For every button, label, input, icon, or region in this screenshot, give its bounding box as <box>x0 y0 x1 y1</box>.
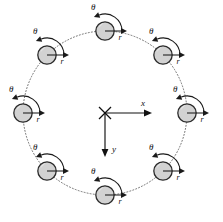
theta-label: θ <box>33 142 38 152</box>
x-axis-label: x <box>140 98 145 108</box>
x-axis-arrow <box>105 110 152 117</box>
r-label: r <box>36 115 40 124</box>
particle-4: θr <box>149 142 185 182</box>
r-label: r <box>118 197 122 206</box>
r-label: r <box>176 173 180 182</box>
r-label: r <box>200 115 204 124</box>
particle-2: θr <box>149 26 185 66</box>
particle-1: θr <box>91 2 127 42</box>
theta-label: θ <box>173 84 178 94</box>
particle-3: θr <box>173 84 209 124</box>
y-axis-label: y <box>111 144 116 154</box>
theta-label: θ <box>91 166 96 176</box>
theta-label: θ <box>33 26 38 36</box>
particle-6: θr <box>33 142 69 182</box>
theta-label: θ <box>91 2 96 12</box>
y-axis-arrow <box>102 113 109 157</box>
particles-layer: θrθrθrθrθrθrθrθr <box>9 2 209 206</box>
particle-5: θr <box>91 166 127 206</box>
r-label: r <box>60 57 64 66</box>
coordinate-axes: x y <box>99 98 152 157</box>
theta-label: θ <box>9 84 14 94</box>
particle-7: θr <box>9 84 45 124</box>
particle-8: θr <box>33 26 69 66</box>
ring-diagram: θrθrθrθrθrθrθrθr x y <box>0 0 223 222</box>
theta-label: θ <box>149 142 154 152</box>
theta-label: θ <box>149 26 154 36</box>
r-label: r <box>176 57 180 66</box>
figure-canvas: θrθrθrθrθrθrθrθr x y <box>0 0 223 222</box>
r-label: r <box>118 33 122 42</box>
r-label: r <box>60 173 64 182</box>
